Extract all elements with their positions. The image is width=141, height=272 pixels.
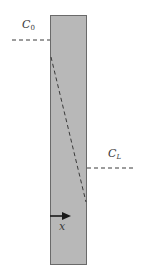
- c0-label: C0: [22, 19, 35, 32]
- x-axis-text: x: [59, 220, 65, 233]
- cl-label: CL: [108, 148, 121, 161]
- membrane-diagram: [0, 0, 141, 272]
- membrane-slab: [51, 16, 87, 265]
- x-axis-label: x: [59, 221, 65, 232]
- cl-subscript: L: [116, 153, 121, 161]
- c0-subscript: 0: [30, 24, 34, 32]
